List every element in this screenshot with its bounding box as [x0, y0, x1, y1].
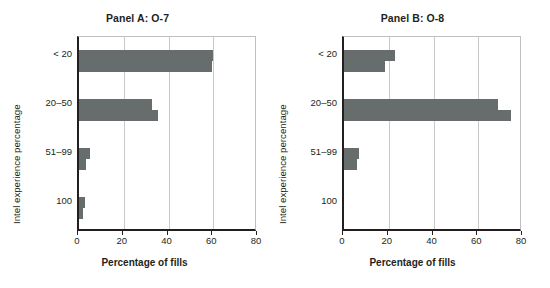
panel-b-ytick-3: 100 — [277, 195, 337, 206]
panel-a-bar-0-lower[interactable] — [79, 61, 212, 72]
panel-b-group-2 — [344, 148, 520, 170]
panel-a-plot-area — [77, 36, 256, 231]
panel-a-xtick-2: 40 — [153, 235, 181, 246]
figure: Panel A: O-7 Intel experience percentage… — [0, 0, 550, 288]
panel-b-bar-2-upper[interactable] — [344, 148, 359, 159]
panel-b-x-axis-title: Percentage of fills — [275, 257, 550, 268]
chart-panel-a: Panel A: O-7 Intel experience percentage… — [0, 0, 275, 288]
panel-a-ytick-3: 100 — [12, 195, 72, 206]
panel-b-group-0 — [344, 50, 520, 72]
panel-a-xtick-3: 60 — [197, 235, 225, 246]
panel-a-bar-0-upper[interactable] — [79, 50, 213, 61]
panel-b-xtick-3: 60 — [462, 235, 490, 246]
panel-a-bar-1-lower[interactable] — [79, 110, 158, 121]
panel-b-ytick-1: 20–50 — [277, 97, 337, 108]
panel-b-bar-1-upper[interactable] — [344, 99, 498, 110]
panel-a-ytick-1: 20–50 — [12, 97, 72, 108]
panel-a-bars — [79, 37, 255, 229]
panel-b-xtick-2: 40 — [418, 235, 446, 246]
panel-b-group-3 — [344, 197, 520, 219]
panel-b-xtick-4: 80 — [507, 235, 535, 246]
panel-a-group-2 — [79, 148, 255, 170]
panel-b-bar-1-lower[interactable] — [344, 110, 511, 121]
panel-b-bars — [344, 37, 520, 229]
panel-b-ytick-0: < 20 — [277, 48, 337, 59]
panel-b-xtick-0: 0 — [328, 235, 356, 246]
panel-b-group-1 — [344, 99, 520, 121]
panel-a-y-axis-title: Intel experience percentage — [11, 104, 22, 224]
panel-a-ytick-2: 51–99 — [12, 146, 72, 157]
panel-a-xtick-1: 20 — [108, 235, 136, 246]
panel-a-bar-3-lower[interactable] — [79, 208, 83, 219]
panel-b-y-axis-title: Intel experience percentage — [277, 104, 288, 224]
panel-a-bar-1-upper[interactable] — [79, 99, 152, 110]
panel-a-bar-2-lower[interactable] — [79, 159, 86, 170]
panel-a-title: Panel A: O-7 — [0, 12, 275, 24]
chart-panel-b: Panel B: O-8 Intel experience percentage… — [275, 0, 550, 288]
panel-a-xtick-4: 80 — [242, 235, 270, 246]
panel-a-group-0 — [79, 50, 255, 72]
panel-b-bar-0-upper[interactable] — [344, 50, 395, 61]
panel-a-xtick-0: 0 — [63, 235, 91, 246]
panel-b-bar-0-lower[interactable] — [344, 61, 385, 72]
panel-a-x-axis-title: Percentage of fills — [0, 257, 275, 268]
panel-b-xtick-1: 20 — [373, 235, 401, 246]
panel-b-title: Panel B: O-8 — [275, 12, 550, 24]
panel-a-group-1 — [79, 99, 255, 121]
panel-b-ytick-2: 51–99 — [277, 146, 337, 157]
panel-a-bar-2-upper[interactable] — [79, 148, 90, 159]
panel-a-bar-3-upper[interactable] — [79, 197, 85, 208]
panel-a-group-3 — [79, 197, 255, 219]
panel-b-bar-2-lower[interactable] — [344, 159, 357, 170]
panel-a-ytick-0: < 20 — [12, 48, 72, 59]
panel-b-plot-area — [342, 36, 521, 231]
